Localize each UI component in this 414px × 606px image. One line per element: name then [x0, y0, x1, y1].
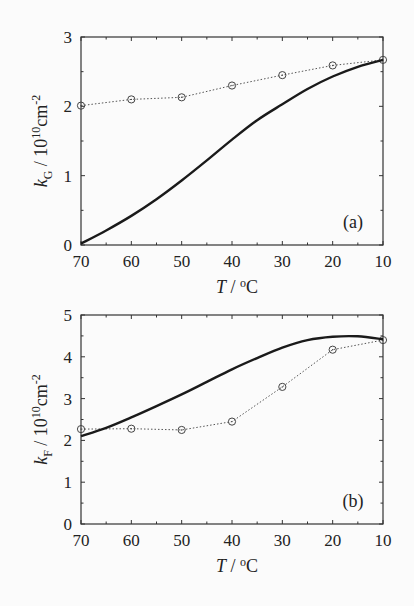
- y-tick-label: 3: [64, 28, 73, 47]
- data-point-dot: [282, 74, 283, 75]
- y-tick-label: 2: [64, 431, 73, 450]
- data-point-dot: [181, 429, 182, 430]
- x-tick-label: 10: [375, 252, 392, 271]
- x-tick-label: 20: [324, 531, 341, 550]
- panel-b: 70605040302010012345(b)T / oCkF / 1010cm…: [29, 306, 392, 576]
- data-point-dot: [181, 97, 182, 98]
- data-point-dot: [231, 85, 232, 86]
- panel-label: (a): [343, 212, 363, 233]
- x-tick-label: 60: [123, 252, 140, 271]
- panel-label: (b): [343, 491, 364, 512]
- y-tick-label: 1: [64, 473, 73, 492]
- series-calculated-line: [81, 60, 383, 244]
- data-point-dot: [332, 349, 333, 350]
- x-tick-label: 20: [324, 252, 341, 271]
- data-point-dot: [332, 65, 333, 66]
- series-measured-line: [81, 60, 383, 106]
- y-tick-label: 5: [64, 306, 73, 325]
- x-axis-label: T / oC: [216, 555, 258, 576]
- x-tick-label: 70: [73, 531, 90, 550]
- y-axis-label: kG / 1010cm-2: [29, 95, 55, 188]
- x-tick-label: 40: [224, 252, 241, 271]
- y-axis-label: kF / 1010cm-2: [29, 374, 55, 465]
- x-tick-label: 70: [73, 252, 90, 271]
- data-point-dot: [282, 386, 283, 387]
- y-tick-label: 3: [64, 390, 73, 409]
- data-point-dot: [80, 428, 81, 429]
- x-tick-label: 30: [274, 252, 291, 271]
- y-tick-label: 1: [64, 167, 73, 186]
- x-tick-label: 10: [375, 531, 392, 550]
- y-tick-label: 0: [64, 515, 73, 534]
- y-tick-label: 0: [64, 236, 73, 255]
- data-point-dot: [131, 99, 132, 100]
- figure: 706050403020100123(a)T / oCkG / 1010cm-2…: [0, 0, 414, 606]
- x-tick-label: 30: [274, 531, 291, 550]
- series-measured-line: [81, 340, 383, 430]
- y-tick-label: 2: [64, 97, 73, 116]
- x-axis-label: T / oC: [216, 276, 258, 297]
- data-point-dot: [231, 421, 232, 422]
- data-point-dot: [131, 428, 132, 429]
- y-tick-label: 4: [64, 348, 73, 367]
- panel-a: 706050403020100123(a)T / oCkG / 1010cm-2: [29, 28, 392, 297]
- x-tick-label: 60: [123, 531, 140, 550]
- data-point-dot: [80, 105, 81, 106]
- x-tick-label: 50: [173, 252, 190, 271]
- x-tick-label: 50: [173, 531, 190, 550]
- x-tick-label: 40: [224, 531, 241, 550]
